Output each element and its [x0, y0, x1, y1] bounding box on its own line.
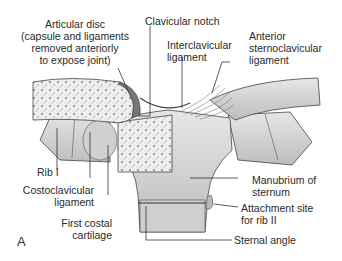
label-line: Articular disc: [16, 18, 134, 30]
label-line: (capsule and ligaments: [16, 30, 134, 42]
label-sternal-angle: Sternal angle: [234, 234, 296, 246]
clavicle-left: [33, 79, 134, 123]
label-line: ligament: [20, 196, 94, 208]
label-interclavicular-ligament: Interclavicular ligament: [167, 39, 232, 63]
label-line: for rib II: [241, 214, 313, 226]
label-attachment-site: Attachment site for rib II: [241, 202, 313, 226]
figure-letter: A: [17, 234, 26, 249]
label-line: First costal: [52, 217, 112, 229]
label-manubrium: Manubrium of sternum: [252, 174, 316, 198]
label-line: Anterior: [249, 30, 322, 42]
label-line: to expose joint): [16, 54, 134, 66]
label-line: Costoclavicular: [20, 184, 94, 196]
label-line: cartilage: [52, 229, 112, 241]
label-clavicular-notch: Clavicular notch: [145, 15, 220, 27]
rib-i-right: [228, 112, 312, 165]
label-line: ligament: [249, 54, 322, 66]
label-line: Interclavicular: [167, 39, 232, 51]
label-first-costal-cartilage: First costal cartilage: [52, 217, 112, 241]
label-line: sternum: [252, 186, 316, 198]
label-line: removed anteriorly: [16, 42, 134, 54]
label-line: Manubrium of: [252, 174, 316, 186]
label-line: sternoclavicular: [249, 42, 322, 54]
label-costoclavicular-ligament: Costoclavicular ligament: [20, 184, 94, 208]
label-rib-i: Rib I: [37, 166, 59, 178]
label-line: Attachment site: [241, 202, 313, 214]
label-articular-disc: Articular disc (capsule and ligaments re…: [16, 18, 134, 66]
label-line: ligament: [167, 51, 232, 63]
label-anterior-sternoclavicular-ligament: Anterior sternoclavicular ligament: [249, 30, 322, 66]
